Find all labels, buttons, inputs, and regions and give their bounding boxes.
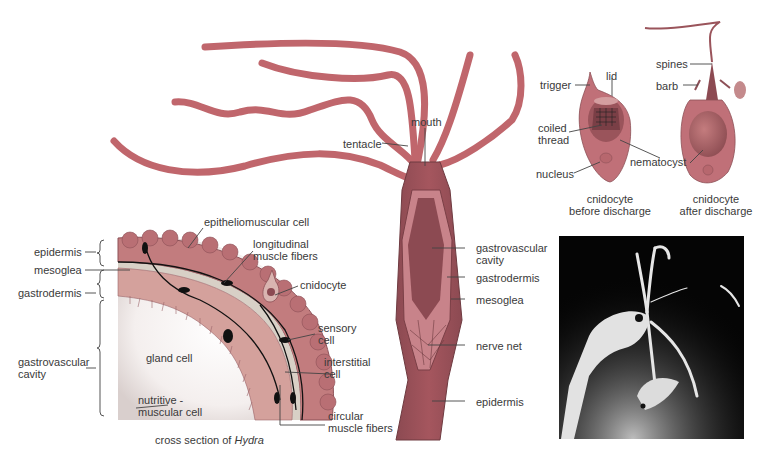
label-line-1: interstitial [324,356,370,368]
caption-before-discharge: cnidocyte before discharge [560,193,660,217]
hydra-body [396,162,462,440]
caption-genus: Hydra [234,434,263,446]
label-gastrovascular-cavity-left: gastrovascular cavity [18,356,90,380]
label-gastrovascular-cavity-body: gastrovascular cavity [476,242,548,266]
label-mesoglea-left: mesoglea [34,264,82,276]
tentacles [114,43,521,180]
label-line-1: gastrovascular [476,242,548,254]
label-sensory-cell: sensory cell [318,322,357,346]
label-line-2: muscular cell [138,406,202,418]
label-gland-cell: gland cell [146,352,192,364]
label-epitheliomuscular-cell: epitheliomuscular cell [204,216,309,228]
label-circular-muscle-fibers: circular muscle fibers [328,410,393,434]
label-line-1: gastrovascular [18,356,90,368]
label-trigger: trigger [540,79,571,91]
label-line-2: cavity [476,254,548,266]
label-coiled-thread: coiled thread [538,122,569,146]
label-epidermis-left: epidermis [34,246,82,258]
label-nutritive-muscular-cell: nutritive - muscular cell [138,394,202,418]
label-line-2: cell [318,334,357,346]
caption-line-2: after discharge [668,205,764,217]
hydra-micrograph [559,236,744,439]
label-longitudinal-muscle-fibers: longitudinal muscle fibers [253,238,318,262]
label-line-1: circular [328,410,393,422]
label-line-1: coiled [538,122,569,134]
label-epidermis-body: epidermis [476,396,524,408]
label-line-2: muscle fibers [253,250,318,262]
label-cnidocyte: cnidocyte [300,279,346,291]
label-nucleus: nucleus [536,168,574,180]
cnidocyte-before [579,72,631,182]
label-barb: barb [656,80,678,92]
caption-after-discharge: cnidocyte after discharge [668,193,764,217]
caption-line-2: before discharge [560,205,660,217]
label-nematocyst: nematocyst [630,156,686,168]
label-line-1: sensory [318,322,357,334]
label-line-2: cavity [18,368,90,380]
label-gastrodermis-left: gastrodermis [18,287,82,299]
label-line-1: nutritive - [138,394,202,406]
label-mesoglea-body: mesoglea [476,294,524,306]
label-lid: lid [606,70,617,82]
label-line-2: thread [538,134,569,146]
label-line-2: muscle fibers [328,422,393,434]
cross-section-caption: cross section of Hydra [155,434,264,446]
caption-text: cross section of [155,434,234,446]
caption-line-1: cnidocyte [560,193,660,205]
label-spines: spines [656,58,688,70]
label-interstitial-cell: interstitial cell [324,356,370,380]
label-nerve-net: nerve net [476,340,522,352]
caption-line-1: cnidocyte [668,193,764,205]
label-mouth: mouth [411,116,442,128]
label-tentacle: tentacle [343,138,382,150]
label-line-2: cell [324,368,370,380]
label-line-1: longitudinal [253,238,318,250]
micrograph-art [559,236,744,439]
label-gastrodermis-body: gastrodermis [476,272,540,284]
